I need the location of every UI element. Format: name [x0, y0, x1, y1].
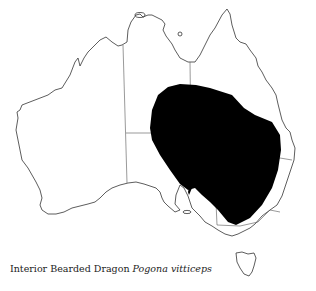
species-range — [150, 84, 281, 225]
australia-distribution-map — [0, 0, 316, 291]
figure-caption: Interior Bearded Dragon Pogona vitticeps — [10, 263, 212, 274]
common-name: Interior Bearded Dragon — [10, 263, 130, 274]
tasmania-outline — [236, 252, 256, 276]
scientific-name: Pogona vitticeps — [133, 263, 212, 274]
wa-border — [123, 45, 127, 183]
kangaroo-island — [183, 210, 191, 213]
